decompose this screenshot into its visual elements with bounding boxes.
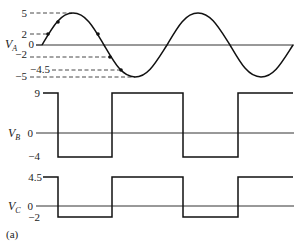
vb-tick-neg4: −4 [28, 150, 40, 162]
panel-vc: 4.5 0 −2 VC [8, 171, 294, 223]
va-tick-2: 2 [22, 28, 28, 40]
vb-tick-0: 0 [28, 127, 34, 139]
va-point-4-5-rising [56, 20, 60, 24]
va-point-neg2-falling [108, 55, 112, 59]
va-point-2-falling [96, 32, 100, 36]
vc-square-wave [43, 177, 293, 217]
vc-tick-4-5: 4.5 [28, 171, 42, 183]
vc-tick-neg2: −2 [28, 211, 40, 223]
vb-tick-9: 9 [35, 87, 41, 99]
va-tick-neg4-5: −4.5 [30, 63, 50, 75]
panel-va: 5 2 0 −2 −4.5 −5 VA [5, 7, 294, 82]
va-point-2-rising [46, 32, 50, 36]
waveform-figure: 5 2 0 −2 −4.5 −5 VA 9 0 −4 VB 4.5 0 −2 V… [0, 0, 304, 250]
va-tick-neg5: −5 [15, 70, 27, 82]
vc-label: VC [8, 199, 21, 215]
va-tick-0: 0 [29, 38, 35, 50]
va-label: VA [5, 37, 17, 53]
vb-label: VB [8, 126, 20, 142]
va-point-neg4-5-falling [119, 68, 123, 72]
panel-vb: 9 0 −4 VB [8, 87, 294, 162]
va-tick-5: 5 [22, 7, 28, 19]
vb-square-wave [43, 93, 293, 157]
figure-caption: (a) [6, 228, 19, 241]
